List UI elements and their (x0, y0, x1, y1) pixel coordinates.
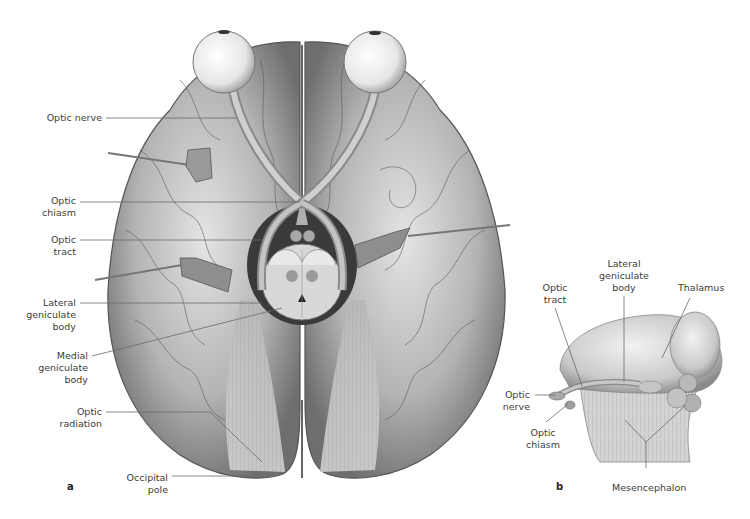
label-text: geniculate (594, 270, 654, 282)
label-text: Optic (530, 282, 580, 294)
label-text: geniculate (26, 362, 88, 374)
label-occipital-pole: Occipital pole (106, 472, 168, 496)
label-text: Medial (26, 350, 88, 362)
label-text: pole (106, 484, 168, 496)
label-optic-chiasm: Optic chiasm (30, 195, 76, 219)
brain-inferior-view (95, 30, 510, 478)
label-text: Mesencephalon (612, 482, 686, 493)
label-b-lateral-geniculate-body: Lateral geniculate body (594, 258, 654, 294)
label-b-optic-nerve: Optic nerve (488, 389, 530, 413)
label-text: Optic (518, 427, 568, 439)
thalamus-lateral-view (549, 312, 722, 462)
label-medial-geniculate-body: Medial geniculate body (26, 350, 88, 386)
label-text: Optic (30, 234, 76, 246)
label-text: Optic (40, 406, 102, 418)
label-text: Thalamus (678, 282, 724, 293)
label-text: Lateral (14, 297, 76, 309)
label-text: chiasm (30, 207, 76, 219)
label-text: Lateral (594, 258, 654, 270)
panel-letter-a: a (67, 481, 74, 492)
label-text: Optic (488, 389, 530, 401)
label-text: nerve (488, 401, 530, 413)
label-b-thalamus: Thalamus (678, 282, 724, 294)
label-b-mesencephalon: Mesencephalon (612, 482, 686, 494)
label-optic-tract: Optic tract (30, 234, 76, 258)
label-text: chiasm (518, 439, 568, 451)
label-b-optic-tract: Optic tract (530, 282, 580, 306)
panel-letter-b: b (556, 481, 563, 492)
label-text: Optic nerve (47, 112, 102, 123)
label-lateral-geniculate-body: Lateral geniculate body (14, 297, 76, 333)
label-text: tract (30, 246, 76, 258)
label-text: Optic (30, 195, 76, 207)
label-text: radiation (40, 418, 102, 430)
label-b-optic-chiasm: Optic chiasm (518, 427, 568, 451)
label-text: body (14, 321, 76, 333)
label-text: body (26, 374, 88, 386)
label-optic-radiation: Optic radiation (40, 406, 102, 430)
label-text: Occipital (106, 472, 168, 484)
label-text: geniculate (14, 309, 76, 321)
label-text: body (594, 282, 654, 294)
label-text: tract (530, 294, 580, 306)
label-optic-nerve: Optic nerve (40, 112, 102, 124)
